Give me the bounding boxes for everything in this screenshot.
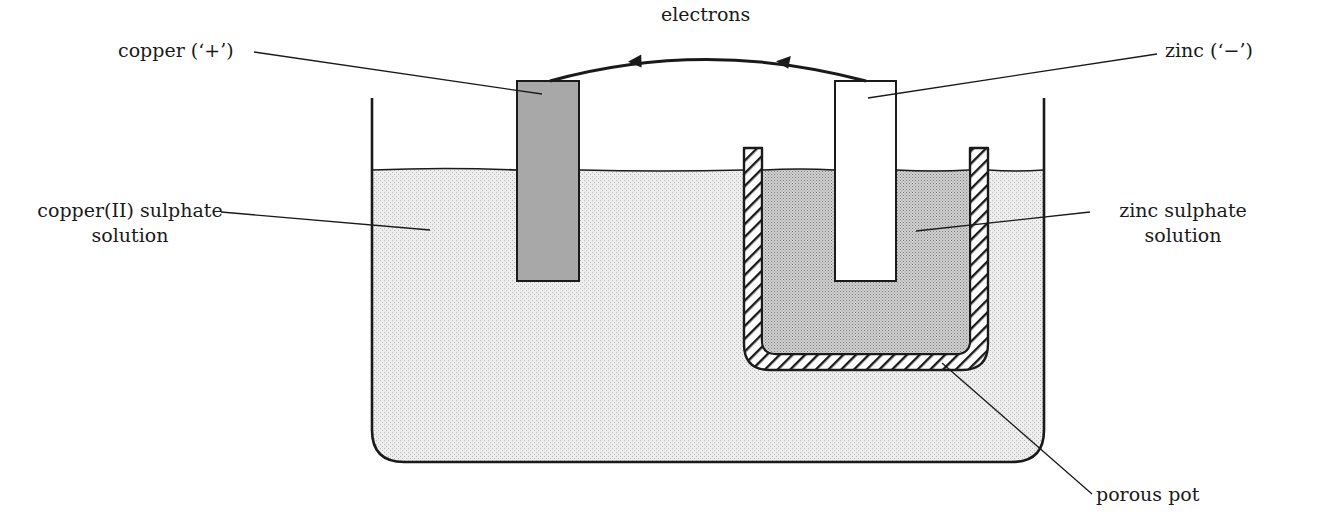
external-wire [550, 60, 866, 82]
electron-arrow-icon [775, 54, 790, 69]
label-copper-electrode: copper (‘+’) [118, 38, 234, 63]
label-line: zinc sulphate [1098, 198, 1268, 223]
label-electrons: electrons [661, 2, 750, 27]
label-copper-sulphate-solution: copper(II) sulphate solution [30, 198, 230, 248]
label-zinc-sulphate-solution: zinc sulphate solution [1098, 198, 1268, 248]
label-zinc-electrode: zinc (‘−’) [1165, 38, 1253, 63]
label-porous-pot: porous pot [1096, 482, 1199, 507]
leader-line-copper [254, 52, 542, 94]
label-line: solution [1098, 223, 1268, 248]
label-line: solution [30, 223, 230, 248]
solution-surface [580, 170, 745, 171]
copper-electrode [517, 81, 579, 281]
leader-line-zinc [868, 54, 1157, 98]
electron-arrow-icon [627, 54, 642, 68]
label-line: copper(II) sulphate [30, 198, 230, 223]
zinc-electrode [835, 81, 896, 281]
daniell-cell-diagram [0, 0, 1336, 530]
